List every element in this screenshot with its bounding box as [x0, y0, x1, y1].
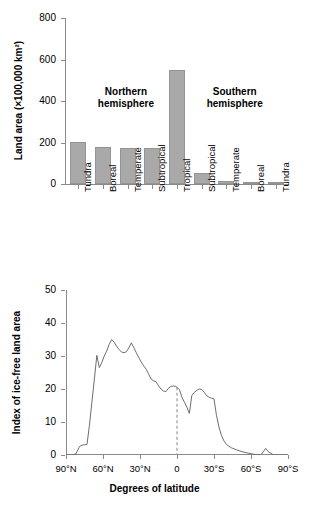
bar-chart-x-tickmark	[103, 185, 104, 189]
line-chart-y-tickmark	[61, 389, 65, 390]
bar-chart-x-tickmark	[276, 185, 277, 189]
bar-chart-y-tick: 0	[22, 179, 56, 189]
line-chart-svg	[66, 290, 288, 455]
line-chart-x-axis-label: Degrees of latitude	[0, 483, 309, 494]
bar-chart-panel: Land area (×100,000 km²) 0200400600800 T…	[0, 0, 309, 265]
line-chart-y-tick: 10	[22, 417, 56, 427]
bar-chart-x-tickmark	[177, 185, 178, 189]
annotation-line1: Northern	[105, 86, 147, 97]
annotation-line2: hemisphere	[207, 98, 263, 109]
line-chart-y-tick: 40	[22, 318, 56, 328]
bar-category-label: Temperate	[132, 147, 143, 192]
line-chart-x-tickmark	[66, 455, 67, 459]
line-chart-y-tickmark	[61, 422, 65, 423]
line-chart-y-tick: 20	[22, 384, 56, 394]
bar-category-label: Subtropical	[156, 144, 167, 192]
bar-category-label: Boreal	[107, 165, 118, 192]
bar-chart-y-tick: 400	[22, 96, 56, 106]
bar-chart-x-tickmark	[226, 185, 227, 189]
line-chart-panel: Index of ice-free land area 01020304050 …	[0, 265, 309, 525]
bar-category-label: Boreal	[255, 165, 266, 192]
bar-category-label: Tundra	[82, 162, 93, 192]
line-chart-x-tickmark	[140, 455, 141, 459]
line-chart-y-tickmark	[61, 290, 65, 291]
annotation-northern-hemisphere: Northernhemisphere	[66, 86, 186, 110]
line-chart-y-tick: 50	[22, 285, 56, 295]
bar-chart-x-tickmark	[202, 185, 203, 189]
annotation-southern-hemisphere: Southernhemisphere	[175, 86, 295, 110]
line-chart-plot-area	[66, 290, 288, 455]
bar-chart-y-tick: 800	[22, 13, 56, 23]
bar-chart-x-tickmark	[152, 185, 153, 189]
bar-category-label: Temperate	[230, 147, 241, 192]
line-chart-y-tickmark	[61, 323, 65, 324]
line-chart-x-tickmark	[103, 455, 104, 459]
bar-category-label: Tropical	[181, 159, 192, 192]
line-chart-y-tick: 30	[22, 351, 56, 361]
line-chart-x-tickmark	[177, 455, 178, 459]
line-chart-y-axis-label: Index of ice-free land area	[11, 260, 22, 485]
line-chart-y-tickmark	[61, 455, 65, 456]
line-chart-x-tickmark	[251, 455, 252, 459]
bar-chart-y-tick: 200	[22, 138, 56, 148]
annotation-line2: hemisphere	[98, 98, 154, 109]
line-chart-x-tickmark	[288, 455, 289, 459]
bar-chart-x-tickmark	[251, 185, 252, 189]
line-chart-x-tickmark	[214, 455, 215, 459]
bar-category-label: Subtropical	[206, 144, 217, 192]
bar-chart-y-tick: 600	[22, 55, 56, 65]
bar-chart-x-tickmark	[128, 185, 129, 189]
annotation-line1: Southern	[213, 86, 257, 97]
bar-category-label: Tundra	[280, 162, 291, 192]
line-chart-y-tick: 0	[22, 450, 56, 460]
line-chart-x-tick: 90°S	[263, 463, 309, 474]
figure-container: Land area (×100,000 km²) 0200400600800 T…	[0, 0, 309, 525]
line-chart-y-tickmark	[61, 356, 65, 357]
bar-chart-x-tickmark	[78, 185, 79, 189]
